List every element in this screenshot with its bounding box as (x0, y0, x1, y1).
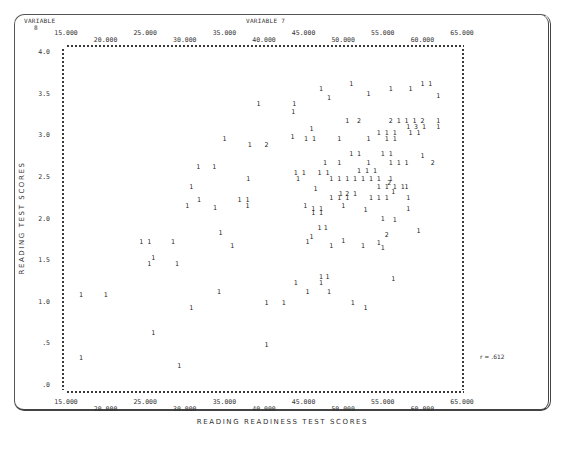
data-point: 1 (189, 304, 193, 311)
right-axis-dotted-line (462, 48, 464, 390)
data-point: 1 (337, 194, 341, 201)
data-point: 1 (367, 90, 371, 97)
y-variable-number: 8 (24, 24, 55, 31)
data-point: 1 (291, 109, 295, 116)
data-point: 1 (147, 239, 151, 246)
data-point: 1 (213, 204, 217, 211)
data-point: 1 (369, 194, 373, 201)
data-point: 1 (177, 363, 181, 370)
scatter-plot-area: 1111111111111111111111211111111111111111… (66, 52, 462, 385)
data-point: 1 (361, 243, 365, 250)
data-point: 1 (377, 184, 381, 191)
data-point: 1 (367, 136, 371, 143)
data-point: 1 (302, 169, 306, 176)
data-point: 1 (171, 239, 175, 246)
data-point: 1 (196, 164, 200, 171)
data-point: 1 (345, 118, 349, 125)
data-point: 1 (294, 280, 298, 287)
data-point: 1 (104, 292, 108, 299)
data-point: 1 (397, 159, 401, 166)
data-point: 1 (393, 136, 397, 143)
x-tick-label: 35.000 (213, 398, 236, 406)
x-tick-label: 45.000 (292, 29, 315, 37)
data-point: 1 (237, 197, 241, 204)
data-point: 1 (381, 215, 385, 222)
data-point: 1 (323, 159, 327, 166)
data-point: 1 (351, 300, 355, 307)
data-point: 1 (363, 207, 367, 214)
data-point: 1 (311, 209, 315, 216)
data-point: 1 (385, 136, 389, 143)
data-point: 1 (357, 150, 361, 157)
data-point: 1 (329, 194, 333, 201)
y-tick-label: .5 (24, 339, 50, 347)
data-point: 1 (317, 225, 321, 232)
data-point: 1 (369, 175, 373, 182)
data-point: 1 (391, 276, 395, 283)
x-tick-label: 60.000 (411, 405, 434, 413)
data-point: 1 (245, 203, 249, 210)
data-point: 1 (325, 169, 329, 176)
data-point: 1 (151, 330, 155, 337)
x-tick-label: 65.000 (450, 398, 473, 406)
x-tick-label: 35.000 (213, 29, 236, 37)
data-point: 1 (197, 197, 201, 204)
data-point: 1 (420, 153, 424, 160)
x-axis-title: READING READINESS TEST SCORES (0, 418, 565, 426)
data-point: 1 (349, 150, 353, 157)
data-point: 1 (151, 255, 155, 262)
x-tick-label: 20.000 (94, 36, 117, 44)
data-point: 1 (310, 126, 314, 133)
x-tick-label: 15.000 (54, 29, 77, 37)
data-point: 1 (422, 124, 426, 131)
data-point: 1 (389, 159, 393, 166)
data-point: 1 (282, 300, 286, 307)
data-point: 1 (306, 239, 310, 246)
y-tick-label: 3.5 (24, 90, 50, 98)
y-tick-label: 3.0 (24, 131, 50, 139)
data-point: 1 (345, 175, 349, 182)
bottom-axis-dotted-line (66, 391, 464, 393)
data-point: 1 (310, 234, 314, 241)
y-tick-label: 2.0 (24, 215, 50, 223)
data-point: 1 (329, 175, 333, 182)
x-tick-label: 55.000 (371, 398, 394, 406)
data-point: 1 (349, 80, 353, 87)
data-point: 1 (264, 300, 268, 307)
data-point: 1 (79, 354, 83, 361)
data-point: 1 (296, 175, 300, 182)
data-point: 1 (306, 289, 310, 296)
y-tick-label: 2.5 (24, 173, 50, 181)
data-point: 1 (381, 244, 385, 251)
data-point: 1 (264, 342, 268, 349)
data-point: 1 (292, 101, 296, 108)
data-point: 1 (291, 134, 295, 141)
data-point: 1 (314, 186, 318, 193)
y-variable-name: VARIABLE (24, 17, 55, 24)
x-tick-label: 40.000 (252, 36, 275, 44)
data-point: 1 (377, 130, 381, 137)
data-point: 2 (387, 179, 391, 186)
data-point: 1 (175, 261, 179, 268)
data-point: 1 (139, 239, 143, 246)
data-point: 1 (218, 230, 222, 237)
y-tick-label: 1.0 (24, 298, 50, 306)
data-point: 1 (341, 203, 345, 210)
data-point: 1 (189, 184, 193, 191)
x-tick-label: 40.000 (252, 405, 275, 413)
data-point: 1 (256, 101, 260, 108)
data-point: 1 (377, 175, 381, 182)
data-point: 1 (436, 93, 440, 100)
data-point: 1 (406, 205, 410, 212)
data-point: 2 (431, 159, 435, 166)
x-tick-label: 65.000 (450, 29, 473, 37)
data-point: 1 (367, 159, 371, 166)
data-point: 1 (405, 159, 409, 166)
data-point: 1 (345, 194, 349, 201)
data-point: 1 (385, 194, 389, 201)
data-point: 1 (217, 289, 221, 296)
data-point: 1 (420, 80, 424, 87)
data-point: 1 (391, 189, 395, 196)
x-tick-label: 25.000 (133, 29, 156, 37)
data-point: 2 (385, 232, 389, 239)
